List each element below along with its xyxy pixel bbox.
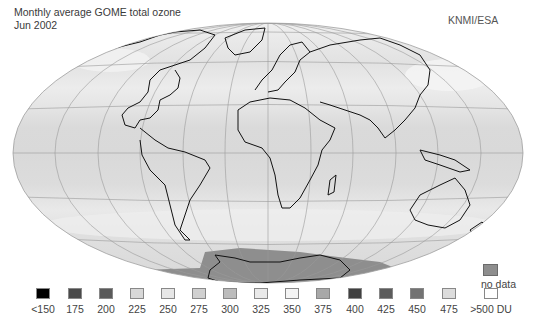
no-data-swatch: [483, 264, 498, 276]
legend-swatch: [36, 288, 50, 299]
globe-fill: [0, 0, 535, 326]
no-data-legend: no data: [481, 264, 525, 290]
legend-swatch: [285, 288, 299, 299]
legend-swatch: [316, 288, 330, 299]
legend-swatch: [348, 288, 362, 299]
legend-swatch: [99, 288, 113, 299]
legend-swatch: [410, 288, 424, 299]
ozone-color-legend: <150 175 200 225 250 275 300 325 350 375…: [27, 288, 527, 322]
legend-swatch: [68, 288, 82, 299]
legend-swatch: [442, 288, 456, 299]
legend-swatch: [223, 288, 237, 299]
legend-swatch: [192, 288, 206, 299]
legend-item: >500 DU: [463, 288, 519, 315]
ozone-world-map: [0, 0, 535, 326]
legend-swatch: [379, 288, 393, 299]
legend-swatch: [484, 288, 498, 299]
legend-swatch: [161, 288, 175, 299]
legend-swatch: [130, 288, 144, 299]
legend-swatch: [254, 288, 268, 299]
